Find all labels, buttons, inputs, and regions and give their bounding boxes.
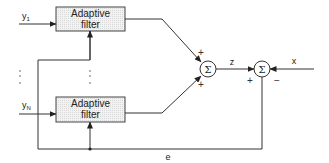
- summer-2-minus: −: [274, 75, 280, 86]
- summer-2-plus: +: [247, 75, 253, 86]
- filter-1-output-line: [125, 19, 201, 62]
- feedback-junction-dot: [88, 147, 91, 150]
- block-n-line2: filter: [81, 109, 101, 120]
- summer-1-plus-bottom: +: [198, 79, 204, 90]
- svg-text:Σ: Σ: [204, 64, 211, 75]
- x-label: x: [292, 56, 297, 66]
- e-label: e: [165, 152, 170, 162]
- svg-text:Σ: Σ: [258, 64, 265, 75]
- adaptive-filter-block-n: Adaptive filter: [56, 97, 125, 122]
- block-1-line1: Adaptive: [71, 8, 110, 19]
- summer-1-plus-top: +: [198, 47, 204, 58]
- block-1-line2: filter: [81, 19, 101, 30]
- summing-junction-2: Σ + −: [247, 61, 280, 86]
- summing-junction-1: Σ + +: [198, 47, 216, 90]
- adaptive-filter-block-1: Adaptive filter: [56, 7, 125, 31]
- error-feedback-line: [38, 31, 262, 149]
- ellipsis-dots: [19, 70, 90, 83]
- filter-n-output-line: [125, 76, 201, 113]
- input-label-y1: y1: [22, 11, 31, 22]
- adaptive-filter-diagram: Adaptive filter Adaptive filter y1 yN Σ …: [0, 0, 329, 163]
- block-n-line1: Adaptive: [71, 98, 110, 109]
- input-label-yn: yN: [22, 100, 31, 111]
- z-label: z: [230, 57, 235, 67]
